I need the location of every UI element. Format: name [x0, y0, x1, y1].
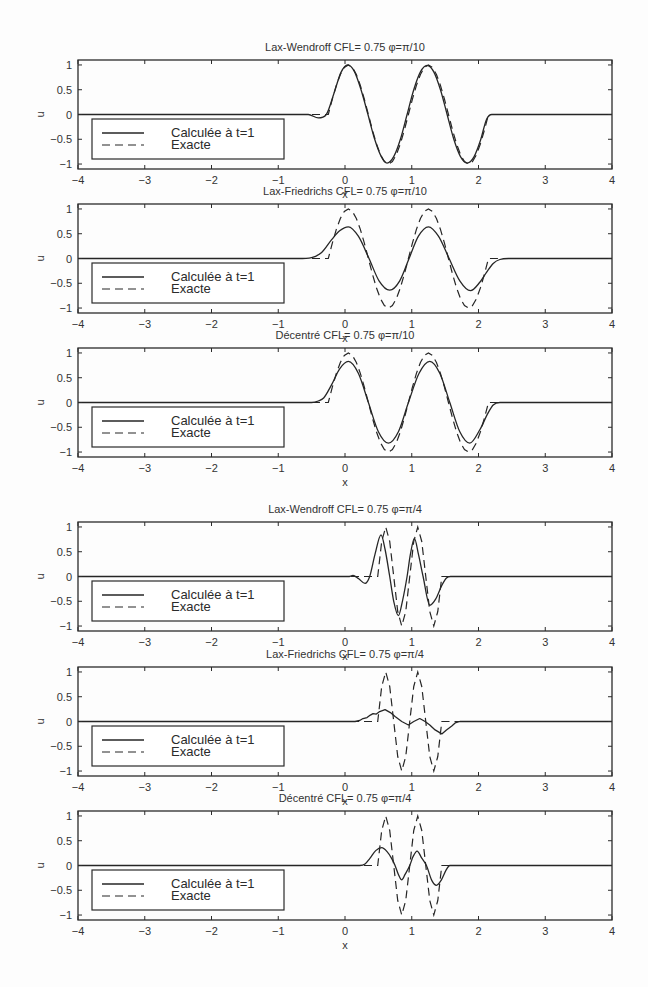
plot-title: Lax-Wendroff CFL= 0.75 φ=π/4	[268, 503, 422, 515]
y-tick-label: −1	[59, 620, 72, 632]
x-tick-label: 3	[542, 318, 548, 330]
x-tick-label: −3	[138, 462, 151, 474]
plot-title: Décentré CFL= 0.75 φ=π/4	[279, 792, 412, 804]
y-tick-label: 0	[66, 571, 72, 583]
x-tick-label: 3	[542, 174, 548, 186]
y-tick-label: 1	[66, 810, 72, 822]
y-tick-label: 0.5	[57, 691, 72, 703]
subplot-6: Décentré CFL= 0.75 φ=π/4Calculée à t=1Ex…	[34, 792, 615, 951]
x-tick-label: 3	[542, 925, 548, 937]
legend-label: Exacte	[171, 425, 211, 440]
x-tick-label: −3	[138, 636, 151, 648]
y-tick-label: −0.5	[50, 884, 72, 896]
plot-title: Lax-Wendroff CFL= 0.75 φ=π/10	[265, 41, 425, 53]
figure: Lax-Wendroff CFL= 0.75 φ=π/10Calculée à …	[0, 0, 648, 987]
y-axis-label: u	[34, 718, 46, 724]
x-tick-label: −2	[205, 781, 218, 793]
legend-label: Exacte	[171, 281, 211, 296]
y-tick-label: 1	[66, 666, 72, 678]
legend: Calculée à t=1Exacte	[92, 726, 284, 766]
x-tick-label: 1	[409, 925, 415, 937]
y-tick-label: 0.5	[57, 546, 72, 558]
legend: Calculée à t=1Exacte	[92, 581, 284, 621]
x-tick-label: −4	[72, 462, 85, 474]
y-tick-label: 0	[66, 860, 72, 872]
subplot-5: Lax-Friedrichs CFL= 0.75 φ=π/4Calculée à…	[34, 648, 615, 807]
y-tick-label: −0.5	[50, 277, 72, 289]
y-tick-label: 1	[66, 203, 72, 215]
x-axis-label: x	[342, 939, 348, 951]
y-tick-label: −0.5	[50, 421, 72, 433]
legend: Calculée à t=1Exacte	[92, 870, 284, 910]
x-tick-label: 2	[475, 318, 481, 330]
legend-label: Exacte	[171, 744, 211, 759]
y-tick-label: −1	[59, 302, 72, 314]
y-axis-label: u	[34, 573, 46, 579]
y-tick-label: −0.5	[50, 133, 72, 145]
y-tick-label: 1	[66, 59, 72, 71]
x-tick-label: −4	[72, 318, 85, 330]
x-tick-label: 3	[542, 636, 548, 648]
x-tick-label: 2	[475, 925, 481, 937]
subplot-1: Lax-Wendroff CFL= 0.75 φ=π/10Calculée à …	[34, 41, 615, 200]
x-tick-label: 4	[609, 636, 615, 648]
x-tick-label: 0	[342, 636, 348, 648]
x-tick-label: 4	[609, 925, 615, 937]
x-tick-label: −3	[138, 781, 151, 793]
legend-label: Exacte	[171, 137, 211, 152]
x-tick-label: −1	[272, 462, 285, 474]
x-tick-label: 0	[342, 925, 348, 937]
x-tick-label: −2	[205, 174, 218, 186]
x-tick-label: 4	[609, 318, 615, 330]
y-tick-label: 0	[66, 109, 72, 121]
x-tick-label: 0	[342, 462, 348, 474]
x-tick-label: −2	[205, 462, 218, 474]
x-tick-label: −2	[205, 636, 218, 648]
y-tick-label: −1	[59, 765, 72, 777]
x-tick-label: −3	[138, 174, 151, 186]
legend: Calculée à t=1Exacte	[92, 407, 284, 447]
x-axis-label: x	[342, 476, 348, 488]
subplot-3: Décentré CFL= 0.75 φ=π/10Calculée à t=1E…	[34, 329, 615, 488]
y-tick-label: −0.5	[50, 740, 72, 752]
x-tick-label: −1	[272, 925, 285, 937]
y-tick-label: 0.5	[57, 84, 72, 96]
y-tick-label: 0	[66, 716, 72, 728]
y-axis-label: u	[34, 862, 46, 868]
y-tick-label: 0.5	[57, 372, 72, 384]
x-tick-label: −4	[72, 636, 85, 648]
x-tick-label: 2	[475, 636, 481, 648]
legend-label: Exacte	[171, 888, 211, 903]
x-tick-label: 4	[609, 462, 615, 474]
x-tick-label: −2	[205, 925, 218, 937]
legend: Calculée à t=1Exacte	[92, 263, 284, 303]
y-tick-label: −1	[59, 158, 72, 170]
plot-title: Lax-Friedrichs CFL= 0.75 φ=π/4	[266, 648, 424, 660]
x-tick-label: 3	[542, 781, 548, 793]
x-tick-label: 3	[542, 462, 548, 474]
x-tick-label: 4	[609, 781, 615, 793]
x-tick-label: −2	[205, 318, 218, 330]
y-tick-label: −1	[59, 909, 72, 921]
y-tick-label: 1	[66, 347, 72, 359]
x-tick-label: −3	[138, 925, 151, 937]
x-tick-label: 1	[409, 636, 415, 648]
x-tick-label: 2	[475, 174, 481, 186]
x-tick-label: 1	[409, 462, 415, 474]
y-tick-label: −0.5	[50, 595, 72, 607]
subplot-4: Lax-Wendroff CFL= 0.75 φ=π/4Calculée à t…	[34, 503, 615, 662]
x-tick-label: −3	[138, 318, 151, 330]
y-tick-label: 0	[66, 397, 72, 409]
y-tick-label: 0	[66, 253, 72, 265]
y-tick-label: −1	[59, 446, 72, 458]
x-tick-label: 4	[609, 174, 615, 186]
y-axis-label: u	[34, 111, 46, 117]
y-axis-label: u	[34, 399, 46, 405]
x-tick-label: −4	[72, 925, 85, 937]
y-tick-label: 0.5	[57, 835, 72, 847]
y-tick-label: 1	[66, 521, 72, 533]
x-tick-label: −4	[72, 174, 85, 186]
legend: Calculée à t=1Exacte	[92, 119, 284, 159]
x-tick-label: −4	[72, 781, 85, 793]
y-axis-label: u	[34, 255, 46, 261]
